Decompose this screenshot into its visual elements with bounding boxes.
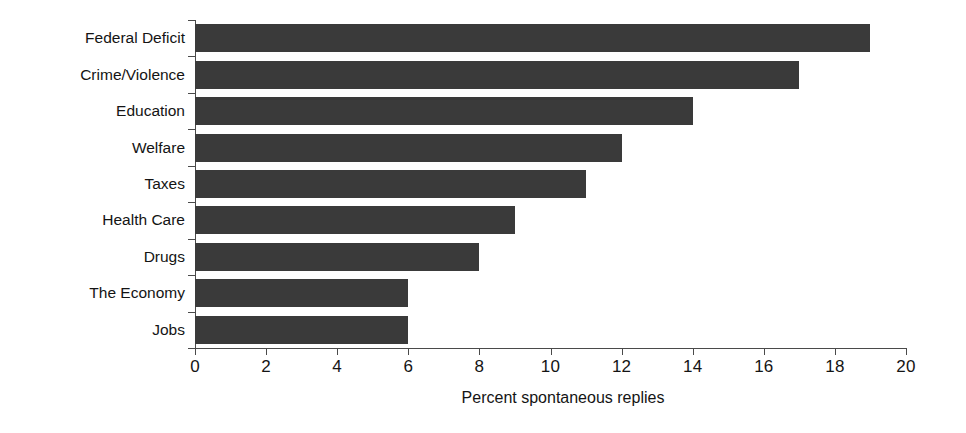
x-axis-tick [266, 348, 267, 355]
x-axis-tick [622, 348, 623, 355]
category-label: Education [0, 103, 185, 119]
x-axis-tick-label: 10 [521, 357, 581, 377]
bar [195, 97, 693, 125]
x-axis-tick-label: 12 [592, 357, 652, 377]
bar [195, 134, 622, 162]
bar [195, 279, 408, 307]
y-axis-tick [188, 20, 195, 21]
x-axis-tick [693, 348, 694, 355]
bar [195, 170, 586, 198]
bar [195, 24, 870, 52]
x-axis-tick-label: 4 [307, 357, 367, 377]
x-axis-tick-label: 6 [378, 357, 438, 377]
x-axis-tick [195, 348, 196, 355]
x-axis-tick [479, 348, 480, 355]
x-axis-tick [835, 348, 836, 355]
category-label: Drugs [0, 249, 185, 265]
y-axis-tick [188, 166, 195, 167]
bar [195, 316, 408, 344]
x-axis-tick-label: 20 [876, 357, 936, 377]
x-axis-tick [906, 348, 907, 355]
y-axis-tick [188, 275, 195, 276]
x-axis-title: Percent spontaneous replies [0, 389, 966, 407]
x-axis-tick [764, 348, 765, 355]
bar [195, 61, 799, 89]
y-axis-tick [188, 93, 195, 94]
category-label: Welfare [0, 140, 185, 156]
x-axis-tick-label: 2 [236, 357, 296, 377]
x-axis-tick-label: 0 [165, 357, 225, 377]
y-axis-tick [188, 348, 195, 349]
category-label: Health Care [0, 212, 185, 228]
x-axis-tick-label: 16 [734, 357, 794, 377]
category-label: Federal Deficit [0, 30, 185, 46]
category-label: The Economy [0, 285, 185, 301]
y-axis-tick [188, 56, 195, 57]
x-axis-tick-label: 8 [449, 357, 509, 377]
x-axis-tick [337, 348, 338, 355]
x-axis-tick [408, 348, 409, 355]
y-axis-tick [188, 239, 195, 240]
category-label: Crime/Violence [0, 67, 185, 83]
bar-chart-figure: Federal DeficitCrime/ViolenceEducationWe… [0, 0, 966, 433]
y-axis-tick [188, 129, 195, 130]
bar [195, 206, 515, 234]
category-label: Jobs [0, 322, 185, 338]
x-axis-title-text: Percent spontaneous replies [302, 389, 665, 407]
y-axis-tick [188, 202, 195, 203]
bar [195, 243, 479, 271]
x-axis-tick-label: 14 [663, 357, 723, 377]
category-label: Taxes [0, 176, 185, 192]
x-axis-tick [551, 348, 552, 355]
x-axis-tick-label: 18 [805, 357, 865, 377]
y-axis-tick [188, 312, 195, 313]
